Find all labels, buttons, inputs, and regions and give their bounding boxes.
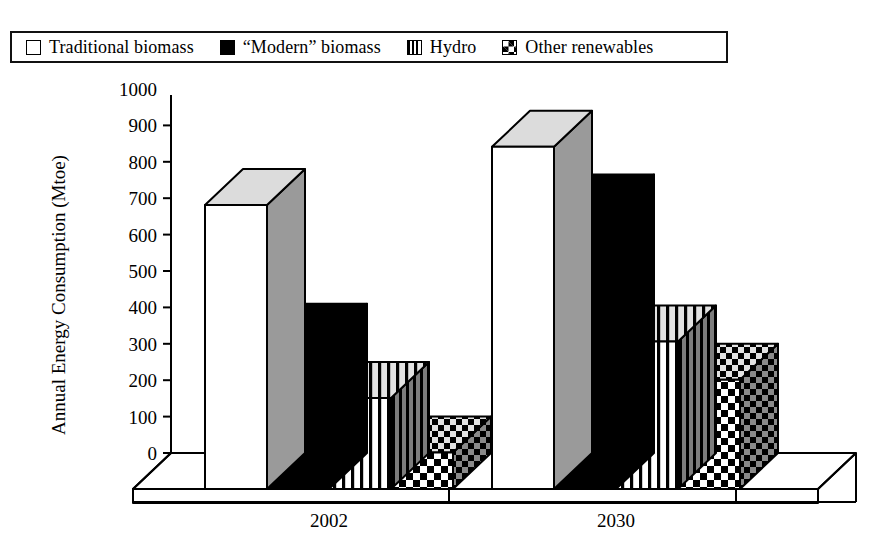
- bar-side-face: [616, 175, 654, 489]
- legend-label: “Modern” biomass: [243, 37, 381, 58]
- vertical-stripe-square-icon: [407, 40, 422, 55]
- chart-floor-front: [133, 489, 818, 503]
- legend-item-hydro: Hydro: [407, 37, 477, 58]
- chart-graphic: [0, 95, 874, 546]
- filled-square-icon: [220, 40, 235, 55]
- legend-label: Traditional biomass: [49, 37, 194, 58]
- bar-2002-traditional-biomass: [205, 169, 305, 489]
- bar-side-face: [267, 169, 305, 489]
- checkerboard-square-icon: [502, 40, 517, 55]
- legend-item-modern-biomass: “Modern” biomass: [220, 37, 381, 58]
- chart-legend: Traditional biomass “Modern” biomass Hyd…: [10, 31, 728, 63]
- legend-item-other-renewables: Other renewables: [502, 37, 653, 58]
- chart-plot-area: Annual Energy Consumption (Mtoe) 0100200…: [0, 95, 874, 546]
- bar-front-face: [205, 205, 267, 489]
- bar-2030-traditional-biomass: [492, 111, 592, 489]
- bar-front-face: [492, 147, 554, 489]
- open-square-icon: [26, 40, 41, 55]
- legend-label: Hydro: [430, 37, 477, 58]
- legend-item-traditional-biomass: Traditional biomass: [26, 37, 194, 58]
- bar-side-face: [554, 111, 592, 489]
- legend-label: Other renewables: [525, 37, 653, 58]
